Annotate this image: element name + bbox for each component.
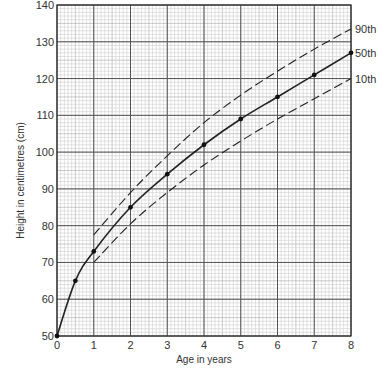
label-50th: 50th [355, 47, 376, 59]
y-axis-ticks: 5060708090100110120130140 [36, 0, 54, 342]
percentile-labels: 90th 50th 10th [355, 23, 376, 85]
x-axis-label: Age in years [176, 354, 232, 365]
y-tick-label: 50 [42, 330, 54, 342]
x-axis-ticks: 012345678 [54, 339, 354, 351]
y-tick-label: 70 [42, 256, 54, 268]
y-tick-label: 110 [36, 109, 54, 121]
y-tick-label: 90 [42, 183, 54, 195]
y-tick-label: 130 [36, 36, 54, 48]
x-tick-label: 2 [127, 339, 133, 351]
data-point-marker [238, 117, 243, 122]
data-point-marker [91, 249, 96, 254]
x-tick-label: 0 [54, 339, 60, 351]
x-tick-label: 8 [348, 339, 354, 351]
x-tick-label: 1 [91, 339, 97, 351]
data-point-marker [349, 50, 354, 55]
data-point-marker [202, 142, 207, 147]
data-point-marker [275, 95, 280, 100]
y-tick-label: 100 [36, 146, 54, 158]
x-tick-label: 5 [238, 339, 244, 351]
y-tick-label: 140 [36, 0, 54, 11]
x-tick-label: 3 [164, 339, 170, 351]
data-point-marker [165, 172, 170, 177]
x-tick-label: 6 [274, 339, 280, 351]
y-axis-label: Height in centimetres (cm) [15, 122, 26, 239]
y-tick-label: 60 [42, 293, 54, 305]
x-tick-label: 4 [201, 339, 207, 351]
data-point-marker [128, 205, 133, 210]
label-90th: 90th [355, 23, 376, 35]
data-point-marker [73, 278, 78, 283]
label-10th: 10th [355, 73, 376, 85]
x-tick-label: 7 [311, 339, 317, 351]
y-tick-label: 80 [42, 220, 54, 232]
data-point-marker [312, 72, 317, 77]
y-tick-label: 120 [36, 73, 54, 85]
data-point-marker [55, 334, 60, 339]
height-growth-chart: 5060708090100110120130140 012345678 90th… [0, 0, 389, 383]
